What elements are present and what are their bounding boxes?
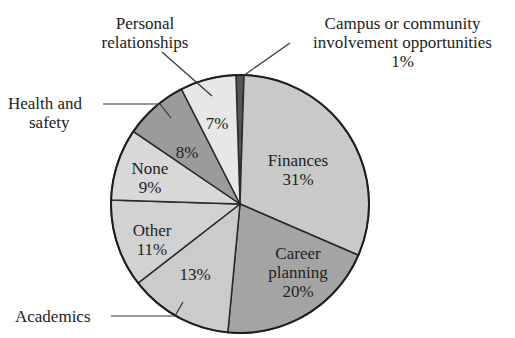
label-other: Other 11% bbox=[133, 221, 172, 259]
label-health-line1: Health and bbox=[8, 94, 82, 113]
pie-slices bbox=[111, 75, 369, 333]
label-health-line2: safety bbox=[8, 113, 82, 132]
label-campus: Campus or community involvement opportun… bbox=[290, 14, 515, 71]
leader-line-campus bbox=[243, 43, 290, 76]
label-personal: Personal relationships bbox=[70, 14, 220, 52]
label-academics-pct: 13% bbox=[179, 265, 210, 284]
label-personal-line1: Personal bbox=[70, 14, 220, 33]
label-personal-line2: relationships bbox=[70, 33, 220, 52]
label-none: None 9% bbox=[132, 159, 169, 197]
label-campus-line2: involvement opportunities bbox=[290, 33, 515, 52]
label-academics: Academics bbox=[15, 307, 91, 326]
label-campus-pct: 1% bbox=[290, 52, 515, 71]
label-finances: Finances 31% bbox=[268, 151, 328, 189]
label-personal-pct: 7% bbox=[206, 114, 229, 133]
label-campus-line1: Campus or community bbox=[290, 14, 515, 33]
label-health-pct: 8% bbox=[176, 143, 199, 162]
label-health: Health and safety bbox=[8, 94, 82, 132]
label-career: Career planning 20% bbox=[268, 244, 328, 301]
